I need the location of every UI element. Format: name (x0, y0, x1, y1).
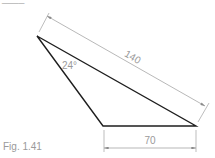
triangle-shape (37, 36, 196, 126)
angle-label: 24° (62, 60, 77, 71)
figure-caption: Fig. 1.41 (3, 141, 42, 152)
extension-line-apex (39, 13, 49, 32)
triangle-diagram: 140 70 24° (0, 0, 215, 158)
dimension-label-70: 70 (144, 135, 156, 146)
dimension-label-140: 140 (123, 48, 143, 66)
extension-line-right (198, 103, 209, 122)
